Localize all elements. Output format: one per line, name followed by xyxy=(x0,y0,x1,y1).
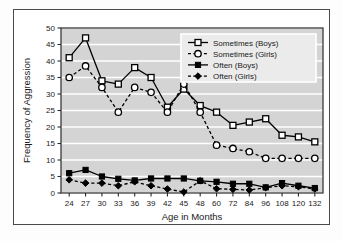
data-point-marker xyxy=(246,149,252,155)
data-point-marker xyxy=(181,176,186,181)
legend-item-label: Sometimes (Girls) xyxy=(213,50,277,59)
x-tick-label: 45 xyxy=(179,199,188,208)
data-point-marker xyxy=(115,81,121,87)
legend-item-label: Often (Boys) xyxy=(213,61,258,70)
y-axis-title: Frequency of Aggression xyxy=(21,58,32,163)
y-tick-label: 35 xyxy=(46,73,55,82)
x-tick-label: 84 xyxy=(245,199,254,208)
y-tick-label: 50 xyxy=(46,24,55,33)
x-tick-label: 60 xyxy=(212,199,221,208)
data-point-marker xyxy=(295,134,301,140)
x-tick-label: 96 xyxy=(261,199,270,208)
data-point-marker xyxy=(230,145,236,151)
data-point-marker xyxy=(312,155,318,161)
data-point-marker xyxy=(263,116,269,122)
data-point-marker xyxy=(82,63,88,69)
y-tick-label: 15 xyxy=(46,139,55,148)
data-point-marker xyxy=(295,155,301,161)
data-point-marker xyxy=(195,62,200,67)
data-point-marker xyxy=(66,55,72,61)
data-point-marker xyxy=(247,181,252,186)
y-tick-label: 45 xyxy=(46,40,55,49)
y-tick-label: 10 xyxy=(46,156,55,165)
data-point-marker xyxy=(279,155,285,161)
data-point-marker xyxy=(312,139,318,145)
data-point-marker xyxy=(262,155,268,161)
data-point-marker xyxy=(195,40,201,46)
x-axis-title: Age in Months xyxy=(162,211,223,222)
data-point-marker xyxy=(195,51,201,57)
y-tick-label: 5 xyxy=(51,172,56,181)
x-tick-label: 39 xyxy=(147,199,156,208)
data-point-marker xyxy=(164,109,170,115)
data-point-marker xyxy=(230,122,236,128)
x-tick-label: 27 xyxy=(81,199,90,208)
y-tick-label: 20 xyxy=(46,123,55,132)
y-tick-label: 30 xyxy=(46,90,55,99)
x-tick-label: 36 xyxy=(130,199,139,208)
data-point-marker xyxy=(99,174,104,179)
data-point-marker xyxy=(213,142,219,148)
data-point-marker xyxy=(148,75,154,81)
data-point-marker xyxy=(132,65,138,71)
data-point-marker xyxy=(83,35,89,41)
data-point-marker xyxy=(66,74,72,80)
legend-item-label: Often (Girls) xyxy=(213,72,257,81)
data-point-marker xyxy=(148,89,154,95)
data-point-marker xyxy=(131,84,137,90)
legend-item-label: Sometimes (Boys) xyxy=(213,39,279,48)
data-point-marker xyxy=(279,132,285,138)
figure-frame: 05101520253035404550 2427303336394245486… xyxy=(13,9,330,225)
y-tick-label: 40 xyxy=(46,57,55,66)
y-axis-ticks: 05101520253035404550 xyxy=(46,24,61,198)
x-tick-label: 30 xyxy=(97,199,106,208)
x-tick-label: 48 xyxy=(196,199,205,208)
data-point-marker xyxy=(99,84,105,90)
x-tick-label: 42 xyxy=(163,199,172,208)
x-tick-label: 120 xyxy=(292,199,306,208)
data-point-marker xyxy=(214,109,220,115)
x-tick-label: 108 xyxy=(275,199,289,208)
data-point-marker xyxy=(197,109,203,115)
aggression-line-chart: 05101520253035404550 2427303336394245486… xyxy=(14,10,331,226)
x-axis-ticks: 24273033363942454860728496108120132 xyxy=(65,193,322,208)
data-point-marker xyxy=(165,176,170,181)
data-point-marker xyxy=(214,179,219,184)
x-tick-label: 33 xyxy=(114,199,123,208)
data-point-marker xyxy=(148,176,153,181)
x-tick-label: 72 xyxy=(228,199,237,208)
chart-area: 05101520253035404550 2427303336394245486… xyxy=(14,10,331,226)
data-point-marker xyxy=(116,176,121,181)
data-point-marker xyxy=(67,171,72,176)
data-point-marker xyxy=(246,119,252,125)
y-tick-label: 25 xyxy=(46,106,55,115)
data-point-marker xyxy=(99,78,105,84)
data-point-marker xyxy=(115,109,121,115)
x-tick-label: 24 xyxy=(65,199,74,208)
data-point-marker xyxy=(83,167,88,172)
figure-root: 05101520253035404550 2427303336394245486… xyxy=(0,0,343,241)
y-tick-label: 0 xyxy=(51,189,56,198)
x-tick-label: 132 xyxy=(308,199,322,208)
chart-legend: Sometimes (Boys)Sometimes (Girls)Often (… xyxy=(181,34,316,82)
